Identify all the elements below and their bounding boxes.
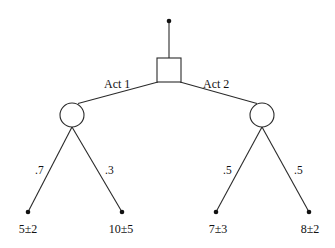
act-1-label: Act 1 bbox=[104, 77, 130, 91]
probability-label-act-1-branch-2: .3 bbox=[105, 164, 114, 176]
chance-node-act-2 bbox=[250, 103, 274, 127]
leaf-dot-1 bbox=[26, 210, 31, 215]
outcome-label-3: 7±3 bbox=[209, 222, 228, 236]
probability-label-act-2-branch-1: .5 bbox=[223, 164, 232, 176]
outcome-label-4: 8±2 bbox=[301, 222, 320, 236]
decision-tree-diagram: Act 1 Act 2 .7 .3 .5 .5 5±2 10±5 7±3 8±2 bbox=[0, 0, 335, 248]
outcome-label-1: 5±2 bbox=[19, 222, 38, 236]
leaf-dot-4 bbox=[307, 210, 312, 215]
probability-label-act-2-branch-2: .5 bbox=[294, 164, 303, 176]
act-2-label: Act 2 bbox=[203, 77, 229, 91]
leaf-dot-2 bbox=[120, 210, 125, 215]
root-entry-dot bbox=[167, 19, 172, 24]
leaf-dots bbox=[26, 210, 312, 215]
outcome-label-2: 10±5 bbox=[109, 222, 134, 236]
root-stem bbox=[167, 19, 172, 58]
decision-node-square bbox=[157, 58, 181, 82]
chance-node-act-1 bbox=[60, 103, 84, 127]
probability-label-act-1-branch-1: .7 bbox=[35, 164, 44, 176]
edge-act-1-branch-2 bbox=[72, 127, 122, 212]
leaf-dot-3 bbox=[214, 210, 219, 215]
